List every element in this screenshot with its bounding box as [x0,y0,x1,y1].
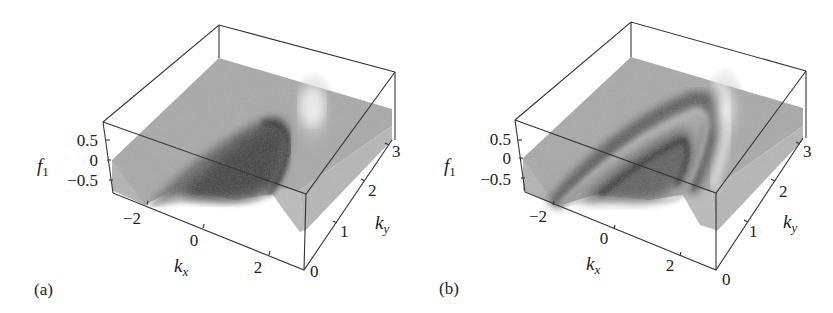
x-tick-neg2: −2 [529,207,547,226]
z-tick-0.5: 0.5 [490,130,511,149]
z-tick-0: 0 [90,151,99,170]
y-tick-0: 0 [310,262,319,281]
y-tick-2: 2 [779,182,788,201]
surface-a [112,58,392,232]
y-axis-label: ky [783,211,797,235]
z-tick-neg0.5: −0.5 [480,170,511,189]
x-axis-label: kx [174,255,188,279]
x-tick-neg2: −2 [123,209,141,228]
y-tick-3: 3 [392,142,401,161]
z-axis-label: f1 [444,155,456,179]
x-axis-label: kx [586,253,600,277]
box-left-vertical-edge [515,120,525,192]
y-axis-label: ky [375,212,389,236]
z-tick-0: 0 [503,149,512,168]
box-left-vertical-edge [103,122,113,193]
panel-label-a: (a) [34,280,53,299]
y-tick-0: 0 [722,270,731,289]
y-tick-1: 1 [340,222,349,241]
panel-b: 0.5 0 −0.5 f1 −2 0 2 kx 0 1 2 3 ky (b) [439,22,812,298]
z-axis-label: f1 [37,155,49,179]
figure: 0.5 0 −0.5 f1 −2 0 2 kx 0 1 2 3 ky (a) [0,0,833,313]
z-tick-neg0.5: −0.5 [67,171,98,190]
x-tick-2: 2 [666,256,675,275]
y-tick-2: 2 [368,181,377,200]
x-tick-2: 2 [254,258,263,277]
x-tick-0: 0 [600,229,609,248]
y-tick-1: 1 [749,222,758,241]
x-tick-0: 0 [190,231,199,250]
panel-label-b: (b) [439,279,459,298]
surface-b [523,57,803,232]
panel-a: 0.5 0 −0.5 f1 −2 0 2 kx 0 1 2 3 ky (a) [34,25,401,299]
y-tick-3: 3 [803,142,812,161]
z-tick-0.5: 0.5 [77,131,98,150]
